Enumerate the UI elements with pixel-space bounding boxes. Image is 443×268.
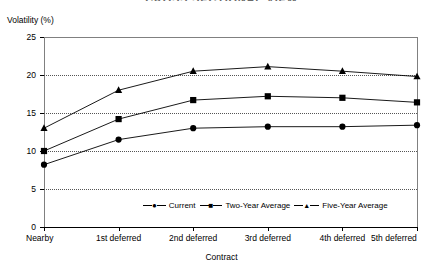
plot-area: 0510152025 Nearby1st deferred2nd deferre… <box>44 37 417 227</box>
series-line <box>44 96 417 151</box>
y-tick-label-20: 20 <box>10 70 36 80</box>
data-point-circle <box>116 137 122 143</box>
x-tick-mark-3 <box>268 227 269 231</box>
x-tick-mark-5 <box>417 227 418 231</box>
y-tick-label-5: 5 <box>10 184 36 194</box>
x-axis-title: Contract <box>0 252 443 262</box>
x-tick-label-2: 2nd deferred <box>169 233 217 243</box>
figure-title: CROSS SECTIONAL VIEW <box>0 0 443 1</box>
legend-line-left <box>294 205 303 206</box>
data-point-triangle <box>40 124 47 131</box>
series-current <box>41 122 420 168</box>
legend-item-two-year-average[interactable]: ■Two-Year Average <box>200 201 295 210</box>
data-point-circle <box>265 124 271 130</box>
data-point-triangle <box>264 63 271 70</box>
legend-line-left <box>200 205 209 206</box>
data-point-circle <box>41 162 47 168</box>
legend-line-left <box>143 205 152 206</box>
y-tick-label-25: 25 <box>10 32 36 42</box>
legend-line-right <box>213 205 222 206</box>
plot-frame-right <box>417 37 418 227</box>
legend-marker-triangle-icon: ▲ <box>303 202 310 209</box>
x-tick-label-3: 3rd deferred <box>245 233 291 243</box>
data-point-circle <box>190 125 196 131</box>
legend-label: Two-Year Average <box>225 201 290 210</box>
legend-label: Current <box>169 201 196 210</box>
series-line <box>44 125 417 165</box>
x-tick-label-0: Nearby <box>26 233 53 243</box>
series-two-year-average <box>41 93 420 154</box>
legend-item-current[interactable]: ●Current <box>143 201 200 210</box>
data-point-square <box>339 95 345 101</box>
y-tick-label-0: 0 <box>10 222 36 232</box>
data-point-square <box>265 93 271 99</box>
data-point-square <box>41 148 47 154</box>
legend-label: Five-Year Average <box>322 201 387 210</box>
x-tick-label-4: 4th deferred <box>319 233 365 243</box>
y-axis-title: Volatility (%) <box>7 15 54 25</box>
y-tick-label-10: 10 <box>10 146 36 156</box>
series-layer <box>44 37 417 227</box>
volatility-cross-sectional-chart: CROSS SECTIONAL VIEW Volatility (%) 0510… <box>0 0 443 268</box>
data-point-square <box>116 116 122 122</box>
data-point-circle <box>339 124 345 130</box>
x-tick-label-5: 5th deferred <box>371 233 417 243</box>
legend-line-right <box>310 205 319 206</box>
x-tick-mark-1 <box>119 227 120 231</box>
x-axis-line <box>44 227 417 228</box>
x-tick-label-1: 1st deferred <box>96 233 141 243</box>
series-five-year-average <box>40 63 420 131</box>
legend-item-five-year-average[interactable]: ▲Five-Year Average <box>294 201 391 210</box>
chart-legend: ●Current■Two-Year Average▲Five-Year Aver… <box>143 201 392 210</box>
x-tick-mark-4 <box>342 227 343 231</box>
legend-line-right <box>157 205 166 206</box>
x-tick-mark-0 <box>44 227 45 231</box>
x-tick-mark-2 <box>193 227 194 231</box>
data-point-square <box>190 97 196 103</box>
data-point-circle <box>414 122 420 128</box>
data-point-square <box>414 99 420 105</box>
y-tick-label-15: 15 <box>10 108 36 118</box>
series-line <box>44 67 417 129</box>
